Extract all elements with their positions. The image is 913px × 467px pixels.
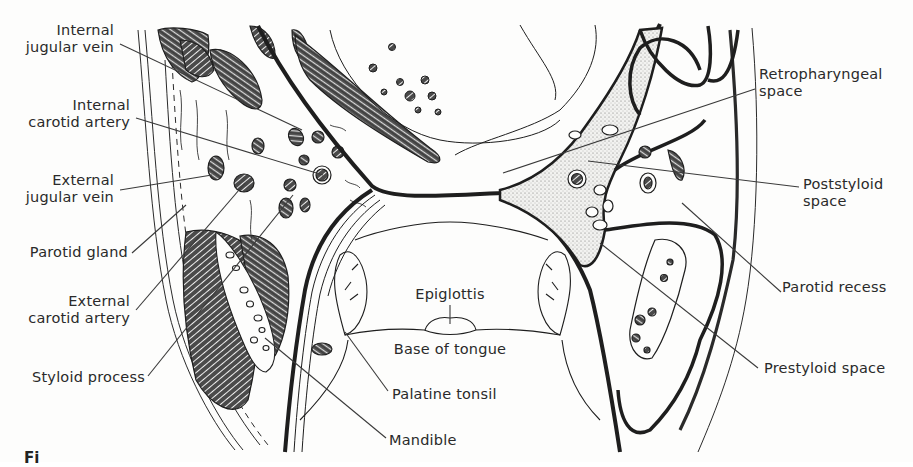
label-mandible: Mandible bbox=[389, 432, 457, 449]
label-internal-carotid-artery: Internal carotid artery bbox=[28, 97, 130, 131]
label-parotid-gland: Parotid gland bbox=[30, 244, 128, 261]
left-vessels bbox=[208, 126, 344, 218]
label-line: Internal bbox=[26, 22, 114, 39]
label-prestyloid-space: Prestyloid space bbox=[764, 360, 885, 377]
label-epiglottis: Epiglottis bbox=[400, 286, 500, 303]
label-line: External bbox=[28, 293, 130, 310]
figure-caption-partial: Fi bbox=[24, 449, 39, 467]
leader-line-parotid-recess bbox=[682, 203, 781, 292]
parotid-recess-shape bbox=[630, 239, 686, 358]
label-palatine-tonsil: Palatine tonsil bbox=[392, 386, 497, 403]
label-line: External bbox=[26, 172, 114, 189]
label-line: Base of tongue bbox=[380, 341, 520, 358]
label-line: Palatine tonsil bbox=[392, 386, 497, 403]
label-line: space bbox=[759, 83, 883, 100]
label-line: Styloid process bbox=[32, 369, 145, 386]
label-line: Epiglottis bbox=[400, 286, 500, 303]
nasopharynx-blobs bbox=[369, 44, 441, 116]
label-line: carotid artery bbox=[28, 114, 130, 131]
label-external-jugular-vein: External jugular vein bbox=[26, 172, 114, 206]
label-line: Poststyloid bbox=[803, 176, 884, 193]
label-internal-jugular-vein: Internal jugular vein bbox=[26, 22, 114, 56]
label-line: space bbox=[803, 193, 884, 210]
leader-line-external-jugular-vein bbox=[120, 175, 212, 190]
label-line: Parotid recess bbox=[782, 279, 886, 296]
label-line: Prestyloid space bbox=[764, 360, 885, 377]
label-line: jugular vein bbox=[26, 39, 114, 56]
soft-palate-outlines bbox=[330, 25, 596, 155]
label-retropharyngeal-space: Retropharyngeal space bbox=[759, 66, 883, 100]
label-external-carotid-artery: External carotid artery bbox=[28, 293, 130, 327]
label-line: Internal bbox=[28, 97, 130, 114]
label-line: carotid artery bbox=[28, 310, 130, 327]
leader-line-poststyloid-space bbox=[588, 161, 799, 187]
label-line: Mandible bbox=[389, 432, 457, 449]
label-base-of-tongue: Base of tongue bbox=[380, 341, 520, 358]
label-line: jugular vein bbox=[26, 189, 114, 206]
label-line: Retropharyngeal bbox=[759, 66, 883, 83]
label-poststyloid-space: Poststyloid space bbox=[803, 176, 884, 210]
label-parotid-recess: Parotid recess bbox=[782, 279, 886, 296]
label-styloid-process: Styloid process bbox=[32, 369, 145, 386]
label-line: Parotid gland bbox=[30, 244, 128, 261]
